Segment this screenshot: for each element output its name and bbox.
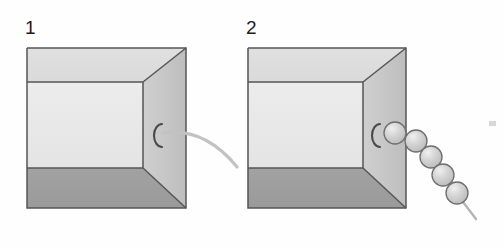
figure-root: 1 2 [0,0,503,247]
sphere-bead [432,164,454,186]
box2-back-wall [248,82,363,168]
sphere-bead [384,122,406,144]
box1-back-wall [27,82,143,168]
sphere-bead [446,182,468,204]
panel-2-chain-tail [463,202,476,219]
panel-1-box [27,48,186,208]
diagram-canvas [0,0,503,247]
panel-2-box [248,48,406,208]
edge-artifact-mark [489,121,496,126]
